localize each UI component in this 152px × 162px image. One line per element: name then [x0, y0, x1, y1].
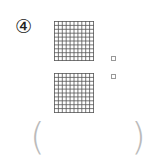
small-square-marker-2 — [111, 74, 116, 79]
hundred-grid-2 — [54, 73, 94, 113]
answer-blank[interactable] — [50, 122, 128, 152]
close-parenthesis: ) — [131, 114, 146, 158]
small-square-marker-1 — [111, 56, 116, 61]
hundred-grid-1 — [54, 21, 94, 61]
grid-1-svg — [54, 21, 94, 61]
problem-number: ④ — [15, 14, 32, 38]
open-parenthesis: ( — [30, 114, 45, 158]
grid-2-svg — [54, 73, 94, 113]
